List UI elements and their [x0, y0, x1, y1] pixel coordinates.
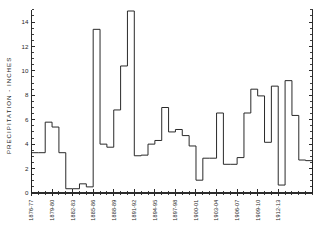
- y-axis: [32, 10, 313, 193]
- x-tick-label: 1879-80: [49, 200, 55, 221]
- precipitation-step-chart: 02468101214 1876-771879-801882-831885-86…: [0, 0, 323, 232]
- precipitation-series: [32, 11, 313, 193]
- y-axis-title: PRECIPITATION - INCHES: [5, 57, 12, 154]
- x-tick-label: 1882-83: [70, 200, 76, 221]
- x-tick-label: 1903-04: [213, 200, 219, 221]
- y-tick-label: 2: [25, 165, 29, 172]
- y-tick-label: 6: [25, 116, 29, 123]
- y-tick-labels: 02468101214: [22, 18, 29, 196]
- x-tick-label: 1885-86: [90, 200, 96, 221]
- step-line: [32, 11, 313, 189]
- x-tick-label: 1888-89: [111, 200, 117, 221]
- x-tick-label: 1897-98: [172, 200, 178, 221]
- x-tick-labels: 1876-771879-801882-831885-861888-891891-…: [28, 200, 281, 221]
- x-tick-label: 1894-95: [152, 200, 158, 221]
- y-tick-label: 14: [22, 18, 29, 25]
- x-tick-label: 1909-10: [255, 200, 261, 221]
- y-tick-label: 8: [25, 91, 29, 98]
- x-tick-label: 1912-13: [275, 200, 281, 221]
- x-tick-label: 1906-07: [234, 200, 240, 221]
- axis-spine: [32, 10, 313, 193]
- x-tick-label: 1891-92: [131, 200, 137, 221]
- x-tick-label: 1900-01: [193, 200, 199, 221]
- y-tick-label: 4: [25, 140, 29, 147]
- y-tick-label: 10: [22, 67, 29, 74]
- y-axis-title-text: PRECIPITATION - INCHES: [5, 57, 12, 154]
- y-tick-label: 0: [25, 189, 29, 196]
- x-tick-label: 1876-77: [28, 200, 34, 221]
- y-tick-label: 12: [22, 43, 29, 50]
- chart-svg: 02468101214 1876-771879-801882-831885-86…: [0, 0, 323, 232]
